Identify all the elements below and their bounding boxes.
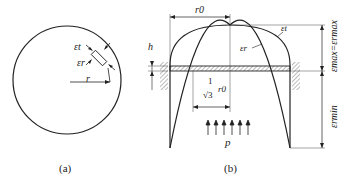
figure-a-diagram: [13, 26, 121, 134]
label-frac-den: √3: [203, 91, 212, 100]
label-eps-t-a: εt: [74, 42, 81, 52]
label-eps-r-a: εr: [77, 58, 85, 68]
label-eps-r-b: εr: [240, 44, 247, 53]
label-h: h: [148, 42, 153, 52]
caption-a: (a): [59, 163, 71, 174]
diagram-canvas: [0, 0, 347, 187]
label-frac-r0: r0: [218, 85, 226, 94]
caption-b: (b): [224, 163, 237, 174]
label-frac-num: 1: [208, 77, 213, 86]
label-eps-max: εmax=εrmax: [328, 20, 339, 72]
label-r0: r0: [195, 5, 204, 15]
label-eps-min: εrmin: [328, 105, 339, 128]
label-radius: r: [86, 74, 90, 84]
strain-gauge-icon: [91, 50, 107, 66]
label-pressure: p: [225, 137, 231, 148]
plate-circle: [13, 26, 121, 134]
pressure-arrows: [206, 120, 250, 135]
figure-b-diagram: [148, 14, 325, 148]
label-eps-t-b: εt: [281, 24, 287, 33]
